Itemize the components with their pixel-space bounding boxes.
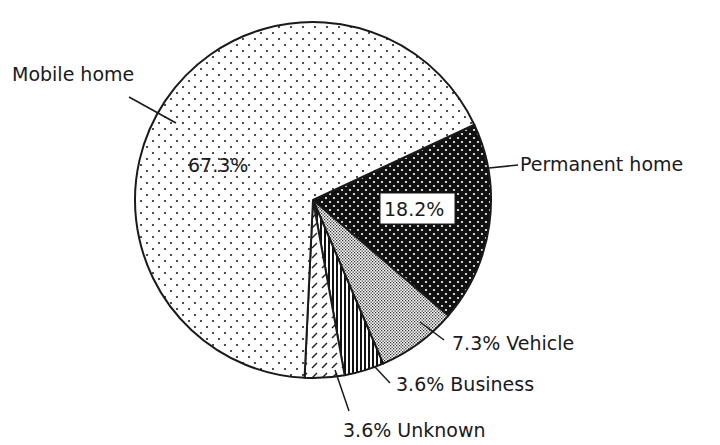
callout-permanent-home — [489, 165, 518, 168]
label-mobile-pct: 67.3% — [188, 154, 248, 176]
label-unknown: 3.6% Unknown — [343, 419, 486, 441]
label-permanent-home: Permanent home — [520, 153, 683, 175]
pie-chart: Mobile home 67.3% Permanent home 18.2% 7… — [0, 0, 720, 445]
label-permanent-pct: 18.2% — [384, 198, 444, 220]
callout-business — [375, 367, 390, 383]
label-vehicle: 7.3% Vehicle — [452, 332, 574, 354]
label-business: 3.6% Business — [396, 373, 534, 395]
label-mobile-home: Mobile home — [12, 63, 134, 85]
